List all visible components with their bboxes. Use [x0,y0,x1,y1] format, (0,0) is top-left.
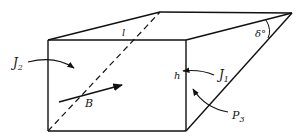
label-h: h [174,70,180,81]
j2-arrow [28,60,74,68]
wedge-diagram: l δ° h J2 J1 B P3 [0,0,308,140]
label-l: l [122,27,125,38]
front-face [48,40,186,131]
hidden-edge [48,12,160,131]
j1-arrow [183,71,214,76]
label-delta: δ° [255,28,266,39]
label-b: B [84,97,93,110]
angle-arc [266,20,270,38]
p3-arrow [193,89,228,112]
label-j2: J2 [10,56,23,72]
label-p3: P3 [231,109,245,124]
label-j1: J1 [216,68,229,84]
